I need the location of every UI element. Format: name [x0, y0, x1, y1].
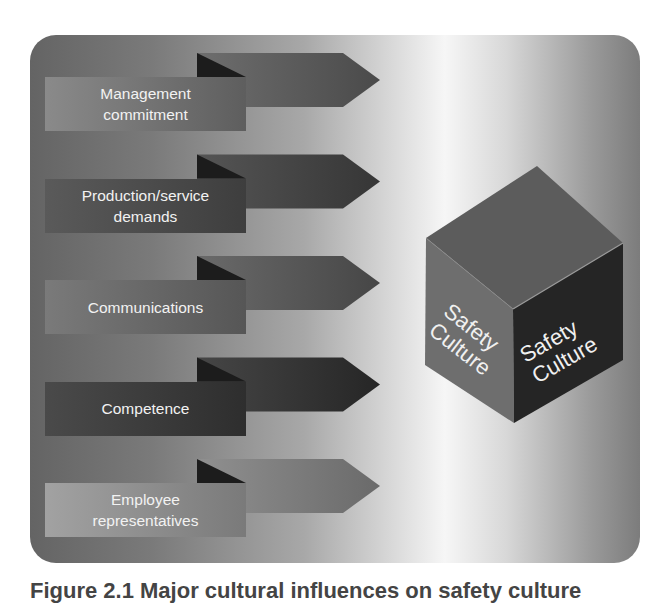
figure-caption: Figure 2.1 Major cultural influences on …	[30, 578, 581, 604]
